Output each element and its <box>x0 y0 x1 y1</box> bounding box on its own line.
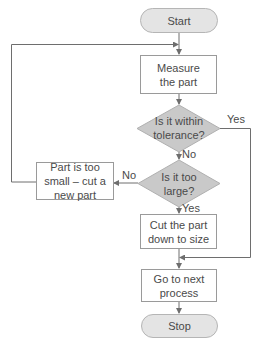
stop-label: Stop <box>168 319 191 333</box>
next-label: Go to next process <box>146 272 212 300</box>
decision-large: Is it too large? <box>155 168 203 200</box>
measure-label: Measure the part <box>151 61 206 89</box>
edge-label-large-no: No <box>122 169 136 181</box>
too-small-label: Part is too small – cut a new part <box>41 160 109 202</box>
cut-process: Cut the part down to size <box>140 214 217 249</box>
stop-terminal: Stop <box>141 314 218 338</box>
edge-label-tolerance-no: No <box>182 148 196 160</box>
too-small-process: Part is too small – cut a new part <box>36 162 114 200</box>
decision-tolerance-label: Is it within tolerance? <box>150 114 208 142</box>
measure-process: Measure the part <box>140 55 217 94</box>
next-process: Go to next process <box>141 269 217 302</box>
edge-label-large-yes: Yes <box>182 202 200 214</box>
edge-label-tolerance-yes: Yes <box>227 113 245 125</box>
start-label: Start <box>167 14 190 28</box>
start-terminal: Start <box>140 8 218 33</box>
decision-large-label: Is it too large? <box>155 170 203 198</box>
cut-label: Cut the part down to size <box>147 218 210 246</box>
decision-tolerance: Is it within tolerance? <box>150 112 208 144</box>
